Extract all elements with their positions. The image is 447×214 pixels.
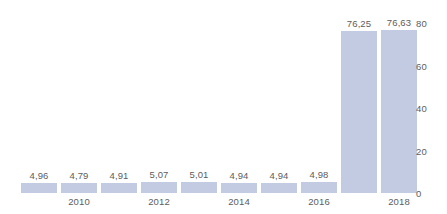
- y-axis: 80 60 40 20 0: [405, 0, 447, 214]
- bar-rect[interactable]: [21, 183, 57, 194]
- bar-category-label: 2016: [308, 196, 330, 207]
- bar-group[interactable]: 4,98 2016: [301, 182, 337, 193]
- bar-category-label: 2012: [148, 196, 170, 207]
- bar-group[interactable]: 4,94 2015: [261, 183, 297, 194]
- y-axis-tick-label: 40: [416, 103, 427, 114]
- bar-group[interactable]: 5,01 2013: [181, 182, 217, 193]
- bar-chart: 4,96 2009 4,79 2010 4,91 2011 5,07 2012 …: [0, 0, 447, 214]
- bar-value-label: 76,25: [347, 18, 371, 29]
- bar-value-label: 4,94: [270, 170, 289, 181]
- y-axis-tick-label: 20: [416, 145, 427, 156]
- y-axis-tick-label: 80: [416, 18, 427, 29]
- bar-value-label: 5,07: [150, 169, 169, 180]
- bar-rect[interactable]: [181, 182, 217, 193]
- y-axis-tick-label: 60: [416, 60, 427, 71]
- bar-value-label: 4,98: [310, 169, 329, 180]
- bar-group[interactable]: 4,96 2009: [21, 183, 57, 194]
- bar-rect[interactable]: [141, 182, 177, 193]
- bar-rect[interactable]: [261, 183, 297, 194]
- bar-value-label: 4,79: [70, 170, 89, 181]
- plot-area: 4,96 2009 4,79 2010 4,91 2011 5,07 2012 …: [0, 0, 405, 214]
- bar-group[interactable]: 76,25 2017: [341, 31, 377, 193]
- bar-rect[interactable]: [301, 182, 337, 193]
- bar-group[interactable]: 4,91 2011: [101, 183, 137, 193]
- bar-rect[interactable]: [101, 183, 137, 193]
- bar-group[interactable]: 4,79 2010: [61, 183, 97, 193]
- bar-group[interactable]: 4,94 2014: [221, 183, 257, 194]
- y-axis-tick-label: 0: [416, 188, 421, 199]
- bar-category-label: 2010: [68, 196, 90, 207]
- bar-group[interactable]: 5,07 2012: [141, 182, 177, 193]
- bar-value-label: 4,94: [230, 170, 249, 181]
- bar-value-label: 4,96: [30, 170, 49, 181]
- bar-value-label: 4,91: [110, 170, 129, 181]
- bar-rect[interactable]: [221, 183, 257, 194]
- bar-rect[interactable]: [61, 183, 97, 193]
- bar-category-label: 2014: [228, 196, 250, 207]
- bar-rect[interactable]: [341, 31, 377, 193]
- bar-value-label: 5,01: [190, 169, 209, 180]
